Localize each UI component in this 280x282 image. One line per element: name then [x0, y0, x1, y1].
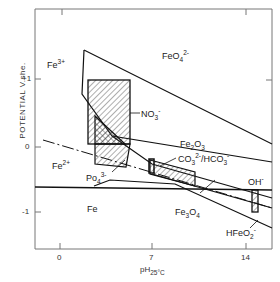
label-oh: OH-	[248, 176, 264, 187]
y-tick-0: 0	[25, 142, 29, 151]
fe3o4-lower	[94, 180, 272, 228]
label-co3-hco3: CO32-/HCO3-	[178, 153, 229, 166]
label-fe2: Fe2+	[52, 160, 70, 171]
label-no3: NO3-	[141, 108, 160, 121]
label-fe3o4: Fe3O4	[175, 208, 200, 219]
y-tick-minus1: -1	[22, 207, 29, 216]
x-tick-14: 14	[241, 253, 250, 262]
x-axis-label: pH25°C	[140, 265, 165, 276]
y-axis-label: POTENTIAL V.she.	[18, 61, 27, 141]
label-hfeo2: HFeO2-	[226, 227, 256, 240]
plot-frame	[35, 9, 272, 249]
label-fe: Fe	[87, 205, 98, 214]
label-po4: Po43-	[86, 172, 106, 185]
axis-ticks	[35, 9, 272, 249]
label-fe2o3: Fe2O3	[180, 140, 205, 151]
oh-zone	[252, 190, 258, 212]
x-tick-7: 7	[149, 253, 153, 262]
po4-zone	[95, 144, 130, 167]
label-fe3: Fe3+	[47, 59, 65, 70]
label-feo4: FeO42-	[162, 50, 189, 63]
x-tick-0: 0	[57, 253, 61, 262]
